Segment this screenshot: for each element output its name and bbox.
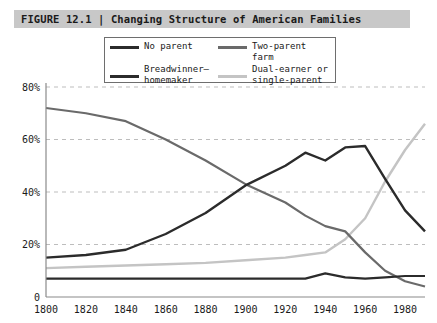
y-tick-label: 60% (22, 134, 40, 145)
legend-swatch-icon (218, 46, 247, 49)
x-tick-label: 1800 (34, 304, 58, 315)
line-chart: 020%40%60%80% 18001820184018601880190019… (0, 80, 437, 323)
legend-item-label: No parent (144, 41, 193, 52)
x-tick-label: 1840 (114, 304, 138, 315)
gridlines (46, 87, 425, 245)
legend-item-two-parent-farm[interactable]: Two-parent farm (218, 41, 330, 63)
x-tick-label: 1820 (74, 304, 98, 315)
legend-swatch-icon (110, 46, 139, 49)
x-axis-tick-labels: 1800182018401860188019001920194019601980 (34, 304, 417, 315)
legend-swatch-icon (110, 75, 139, 78)
y-tick-label: 80% (22, 82, 40, 93)
chart-plot-area: 020%40%60%80% 18001820184018601880190019… (0, 80, 437, 323)
x-tick-label: 1980 (393, 304, 417, 315)
x-tick-label: 1860 (154, 304, 178, 315)
page-title: FIGURE 12.1 | Changing Structure of Amer… (14, 13, 361, 25)
figure-title-band: FIGURE 12.1 | Changing Structure of Amer… (14, 10, 410, 28)
x-tick-label: 1880 (194, 304, 218, 315)
legend-item-label: Two-parent farm (252, 41, 330, 63)
y-tick-label: 20% (22, 239, 40, 250)
x-tick-label: 1920 (273, 304, 297, 315)
y-tick-label: 0 (34, 292, 40, 303)
chart-legend: No parent Two-parent farm Breadwinner– h… (104, 37, 336, 83)
series-line-breadwinner-homemaker (46, 146, 425, 258)
series-line-no-parent (46, 273, 425, 278)
legend-swatch-icon (218, 75, 247, 78)
x-tick-label: 1940 (313, 304, 337, 315)
x-tick-label: 1900 (233, 304, 257, 315)
series-line-dual-earner-or-single-parent (46, 124, 425, 268)
y-tick-label: 40% (22, 187, 40, 198)
figure-root: FIGURE 12.1 | Changing Structure of Amer… (0, 0, 437, 323)
legend-item-no-parent[interactable]: No parent (110, 41, 209, 63)
y-axis-tick-labels: 020%40%60%80% (22, 82, 40, 303)
x-tick-label: 1960 (353, 304, 377, 315)
series-lines (46, 108, 425, 287)
